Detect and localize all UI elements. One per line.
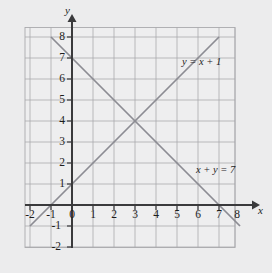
equation-label-line2: x + y = 7 bbox=[196, 164, 235, 175]
x-axis-label: x bbox=[258, 204, 263, 216]
y-tick-label: 2 bbox=[49, 156, 65, 168]
y-tick-label: 7 bbox=[49, 51, 65, 63]
equation-label-line1: y = x + 1 bbox=[182, 56, 221, 67]
y-tick-label: 8 bbox=[49, 30, 65, 42]
x-tick-label: 6 bbox=[190, 208, 206, 220]
x-tick-label: -2 bbox=[22, 208, 38, 220]
y-tick-label: 3 bbox=[49, 135, 65, 147]
y-tick-label: 5 bbox=[49, 93, 65, 105]
y-tick-label: -2 bbox=[45, 240, 61, 252]
x-tick-label: 1 bbox=[85, 208, 101, 220]
y-tick-label: 4 bbox=[49, 114, 65, 126]
y-tick-label: 1 bbox=[49, 177, 65, 189]
x-tick-label: 7 bbox=[211, 208, 227, 220]
x-tick-label: 2 bbox=[106, 208, 122, 220]
x-tick-label: 8 bbox=[229, 208, 245, 220]
x-tick-label: 0 bbox=[64, 208, 80, 220]
figure-page: y x -2 -1 0 1 2 3 4 5 6 7 8 8 7 6 5 4 3 … bbox=[0, 0, 272, 273]
y-tick-label: -1 bbox=[45, 219, 61, 231]
x-tick-label: 3 bbox=[127, 208, 143, 220]
coordinate-graph bbox=[0, 0, 272, 273]
y-tick-label: 6 bbox=[49, 72, 65, 84]
x-tick-label: 5 bbox=[169, 208, 185, 220]
y-axis-label: y bbox=[65, 4, 70, 16]
x-tick-label: 4 bbox=[148, 208, 164, 220]
